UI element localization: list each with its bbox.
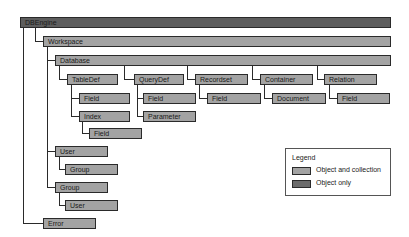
connector — [264, 98, 272, 99]
connector — [59, 156, 60, 170]
connector — [23, 223, 43, 224]
node-database: Database — [55, 55, 391, 66]
node-dbengine: DBEngine — [20, 17, 391, 28]
node-tabledef: TableDef — [67, 74, 118, 85]
legend-swatch-object — [292, 180, 311, 188]
node-index: Index — [79, 111, 130, 122]
connector — [59, 79, 67, 80]
connector — [124, 66, 125, 80]
connector — [317, 79, 324, 80]
connector — [124, 79, 134, 80]
connector — [35, 41, 43, 42]
legend: Legend Object and collection Object only — [285, 148, 391, 196]
connector — [329, 85, 330, 99]
connector — [47, 60, 55, 61]
connector — [264, 85, 265, 99]
connector — [199, 85, 200, 99]
node-group-user: User — [65, 200, 118, 211]
node-index-field: Field — [89, 128, 142, 139]
node-recordset-field: Field — [207, 93, 261, 104]
node-workspace: Workspace — [43, 36, 391, 47]
connector — [59, 66, 60, 80]
connector — [47, 151, 55, 152]
connector — [199, 98, 207, 99]
node-group: Group — [55, 182, 108, 193]
legend-label-collection: Object and collection — [316, 166, 381, 173]
connector — [329, 98, 337, 99]
node-error: Error — [43, 218, 96, 229]
node-parameter: Parameter — [143, 111, 196, 122]
connector — [187, 79, 195, 80]
node-recordset: Recordset — [195, 74, 248, 85]
connector — [187, 66, 188, 80]
connector — [71, 98, 79, 99]
connector — [47, 47, 48, 188]
connector — [23, 28, 24, 224]
connector — [47, 187, 55, 188]
connector — [82, 133, 89, 134]
node-tabledef-field: Field — [79, 93, 130, 104]
connector — [252, 79, 260, 80]
node-document: Document — [272, 93, 326, 104]
node-querydef-field: Field — [143, 93, 196, 104]
connector — [35, 28, 36, 42]
legend-label-object: Object only — [316, 179, 351, 186]
node-relation: Relation — [324, 74, 377, 85]
node-relation-field: Field — [337, 93, 390, 104]
connector — [317, 66, 318, 80]
node-user-group: Group — [65, 164, 118, 175]
node-querydef: QueryDef — [134, 74, 184, 85]
legend-swatch-collection — [292, 167, 311, 175]
connector — [71, 85, 72, 117]
connector — [252, 66, 253, 80]
node-user: User — [55, 146, 108, 157]
legend-title: Legend — [292, 154, 315, 161]
connector — [137, 85, 138, 117]
connector — [59, 192, 60, 206]
connector — [71, 116, 79, 117]
node-container: Container — [260, 74, 313, 85]
